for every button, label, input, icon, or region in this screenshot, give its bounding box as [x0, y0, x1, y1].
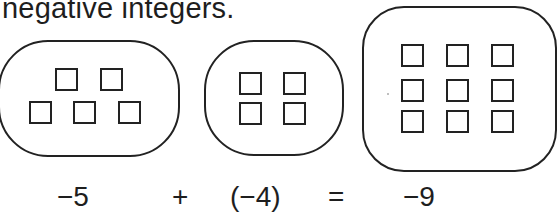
negative-counter	[29, 101, 52, 124]
negative-counter	[283, 72, 306, 95]
negative-counter	[446, 79, 469, 102]
set-negative-four	[204, 40, 344, 156]
negative-counter	[239, 102, 262, 125]
negative-counter	[446, 44, 469, 67]
negative-counter	[491, 110, 514, 133]
equation-right: (−4)	[230, 180, 281, 214]
negative-counter	[491, 79, 514, 102]
heading-text: negative integers.	[2, 0, 235, 28]
negative-counter	[118, 101, 141, 124]
equation-result: −9	[403, 180, 435, 214]
equation-equals: =	[328, 180, 344, 214]
negative-counter	[401, 110, 424, 133]
negative-counter	[73, 101, 96, 124]
speck-mark	[387, 93, 389, 95]
negative-counter	[239, 72, 262, 95]
negative-counter	[100, 68, 123, 91]
negative-counter	[401, 79, 424, 102]
equation-left: −5	[57, 180, 89, 214]
equation-operator: +	[172, 180, 188, 214]
negative-counter	[55, 68, 78, 91]
negative-counter	[283, 102, 306, 125]
negative-counter	[401, 44, 424, 67]
negative-counter	[491, 44, 514, 67]
negative-counter	[446, 110, 469, 133]
set-negative-five	[0, 40, 180, 157]
